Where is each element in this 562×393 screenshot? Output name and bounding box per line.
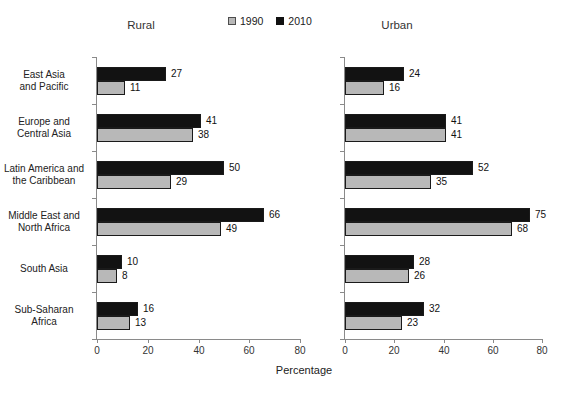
x-axis-title: Percentage bbox=[254, 364, 354, 376]
value-label: 38 bbox=[198, 128, 209, 142]
bar-1990 bbox=[345, 175, 431, 189]
value-label: 32 bbox=[429, 302, 440, 316]
legend-label-1990: 1990 bbox=[240, 15, 263, 27]
category-label: Latin America andthe Caribbean bbox=[0, 163, 88, 187]
value-label: 52 bbox=[478, 161, 489, 175]
value-label: 8 bbox=[122, 269, 128, 283]
value-label: 50 bbox=[229, 161, 240, 175]
x-axis-tick bbox=[249, 339, 250, 343]
category-label: East Asiaand Pacific bbox=[0, 69, 88, 93]
legend-item-2010: 2010 bbox=[276, 15, 311, 27]
x-axis-tick-label: 80 bbox=[289, 345, 311, 356]
x-axis-tick bbox=[542, 339, 543, 343]
value-label: 16 bbox=[389, 81, 400, 95]
grouped-bar-figure: Rural 1990 2010 Urban East Asiaand Pacif… bbox=[0, 0, 562, 393]
x-axis-tick bbox=[493, 339, 494, 343]
x-axis-tick-label: 40 bbox=[433, 345, 455, 356]
x-axis-tick-label: 0 bbox=[86, 345, 108, 356]
bar-1990 bbox=[345, 128, 446, 142]
value-label: 49 bbox=[226, 222, 237, 236]
y-axis-tick bbox=[340, 339, 344, 340]
x-axis-tick bbox=[199, 339, 200, 343]
value-label: 66 bbox=[269, 208, 280, 222]
bar-1990 bbox=[345, 269, 409, 283]
bar-2010 bbox=[97, 208, 264, 222]
x-axis-tick bbox=[444, 339, 445, 343]
y-axis-tick bbox=[340, 104, 344, 105]
bar-1990 bbox=[97, 222, 221, 236]
legend-swatch-1990-icon bbox=[228, 17, 236, 25]
bar-2010 bbox=[345, 208, 530, 222]
legend-label-2010: 2010 bbox=[288, 15, 311, 27]
value-label: 28 bbox=[419, 255, 430, 269]
value-label: 27 bbox=[171, 67, 182, 81]
x-axis-tick-label: 60 bbox=[482, 345, 504, 356]
x-axis-tick-label: 20 bbox=[383, 345, 405, 356]
bar-1990 bbox=[97, 316, 130, 330]
x-axis-tick-label: 20 bbox=[137, 345, 159, 356]
bar-2010 bbox=[345, 255, 414, 269]
bar-2010 bbox=[97, 302, 138, 316]
x-axis-tick bbox=[345, 339, 346, 343]
bar-2010 bbox=[97, 67, 166, 81]
value-label: 11 bbox=[130, 81, 140, 95]
x-axis-tick-label: 80 bbox=[531, 345, 553, 356]
legend: 1990 2010 bbox=[228, 15, 312, 27]
value-label: 10 bbox=[127, 255, 138, 269]
value-label: 16 bbox=[143, 302, 154, 316]
bar-2010 bbox=[345, 67, 404, 81]
category-label: Europe andCentral Asia bbox=[0, 116, 88, 140]
x-axis-tick bbox=[300, 339, 301, 343]
y-axis-tick bbox=[340, 151, 344, 152]
plot-area-urban: 241641415235756828263223020406080 bbox=[344, 57, 542, 340]
y-axis-tick bbox=[92, 339, 96, 340]
y-axis-tick bbox=[92, 151, 96, 152]
bar-2010 bbox=[97, 114, 201, 128]
y-axis-tick bbox=[340, 198, 344, 199]
value-label: 24 bbox=[409, 67, 420, 81]
legend-swatch-2010-icon bbox=[276, 17, 284, 25]
value-label: 35 bbox=[436, 175, 447, 189]
bar-1990 bbox=[345, 81, 384, 95]
x-axis-tick-label: 0 bbox=[334, 345, 356, 356]
x-axis-tick-label: 40 bbox=[188, 345, 210, 356]
y-axis-tick bbox=[92, 292, 96, 293]
y-axis-tick bbox=[92, 104, 96, 105]
value-label: 13 bbox=[135, 316, 146, 330]
bar-1990 bbox=[97, 128, 193, 142]
value-label: 29 bbox=[176, 175, 187, 189]
x-axis-tick-label: 60 bbox=[238, 345, 260, 356]
y-axis-tick bbox=[92, 245, 96, 246]
value-label: 68 bbox=[517, 222, 528, 236]
value-label: 41 bbox=[206, 114, 217, 128]
bar-1990 bbox=[97, 269, 117, 283]
value-label: 26 bbox=[414, 269, 425, 283]
legend-item-1990: 1990 bbox=[228, 15, 263, 27]
value-label: 41 bbox=[451, 128, 462, 142]
category-label: Middle East andNorth Africa bbox=[0, 210, 88, 234]
bar-1990 bbox=[345, 316, 402, 330]
bar-2010 bbox=[97, 255, 122, 269]
y-axis-tick bbox=[340, 57, 344, 58]
chart-title-urban: Urban bbox=[347, 19, 447, 31]
x-axis-tick bbox=[148, 339, 149, 343]
bar-1990 bbox=[97, 81, 125, 95]
category-labels: East Asiaand PacificEurope andCentral As… bbox=[0, 57, 88, 340]
y-axis-tick bbox=[340, 245, 344, 246]
x-axis-tick bbox=[394, 339, 395, 343]
bar-1990 bbox=[345, 222, 512, 236]
bar-2010 bbox=[345, 302, 424, 316]
bar-2010 bbox=[345, 114, 446, 128]
x-axis-tick bbox=[97, 339, 98, 343]
value-label: 41 bbox=[451, 114, 462, 128]
category-label: Sub-SaharanAfrica bbox=[0, 304, 88, 328]
value-label: 23 bbox=[407, 316, 418, 330]
y-axis-tick bbox=[92, 57, 96, 58]
bar-1990 bbox=[97, 175, 171, 189]
y-axis-tick bbox=[340, 292, 344, 293]
plot-area-rural: 27114138502966491081613020406080 bbox=[96, 57, 300, 340]
category-label: South Asia bbox=[0, 263, 88, 275]
y-axis-tick bbox=[92, 198, 96, 199]
bar-2010 bbox=[97, 161, 224, 175]
chart-title-rural: Rural bbox=[91, 19, 191, 31]
